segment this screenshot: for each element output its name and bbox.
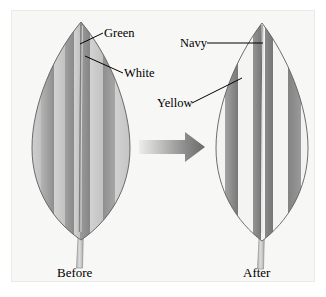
callout-label-yellow: Yellow bbox=[157, 97, 193, 110]
before-leaf-group bbox=[30, 18, 132, 268]
caption-before: Before bbox=[57, 266, 92, 279]
figure-canvas bbox=[0, 0, 326, 297]
after-leaf-group bbox=[214, 18, 311, 269]
callout-label-navy: Navy bbox=[180, 37, 207, 50]
leaf-variegation-figure: Green White Navy Yellow Before After bbox=[0, 0, 326, 297]
callout-label-white: White bbox=[124, 67, 155, 80]
callout-label-green: Green bbox=[104, 27, 135, 40]
caption-after: After bbox=[243, 266, 270, 279]
transformation-arrow bbox=[139, 132, 205, 162]
